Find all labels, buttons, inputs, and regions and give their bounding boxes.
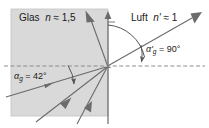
optics-ray-diagram: Glas n ≈ 1,5 Luft n' ≈ 1 α'g = 90° αg = …	[0, 0, 209, 128]
glass-medium-region	[11, 9, 108, 116]
label-air-medium: Luft n' ≈ 1	[131, 13, 177, 23]
label-angle-alpha-g-prime: α'g = 90°	[146, 45, 180, 55]
angle-arc-alpha-g-prime	[108, 25, 145, 62]
label-angle-alpha-g: αg = 42°	[14, 72, 47, 82]
label-glass-medium: Glas n ≈ 1,5	[19, 13, 76, 23]
